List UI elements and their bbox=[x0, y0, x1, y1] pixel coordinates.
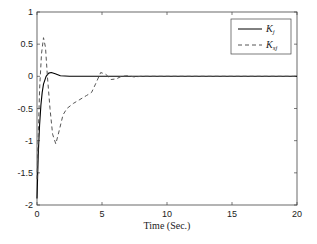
x-tick-label: 15 bbox=[227, 209, 237, 219]
y-tick-label: -0.5 bbox=[17, 104, 33, 114]
y-tick-label: -2 bbox=[25, 200, 33, 210]
x-tick-label: 10 bbox=[162, 209, 172, 219]
y-tick-label: -1 bbox=[25, 136, 33, 146]
y-tick-label: 0.5 bbox=[20, 39, 33, 49]
line-chart: 05101520 10.50-0.5-1-1.5-2 Time (Sec.) K… bbox=[0, 0, 317, 244]
y-tick-label: 1 bbox=[28, 7, 33, 17]
y-tick-label: 0 bbox=[28, 71, 33, 81]
x-tick-label: 0 bbox=[34, 209, 39, 219]
x-tick-label: 5 bbox=[99, 209, 104, 219]
x-axis-label: Time (Sec.) bbox=[144, 220, 191, 232]
legend: Kj Ksj bbox=[231, 19, 291, 54]
y-tick-label: -1.5 bbox=[17, 168, 33, 178]
x-tick-label: 20 bbox=[292, 209, 302, 219]
